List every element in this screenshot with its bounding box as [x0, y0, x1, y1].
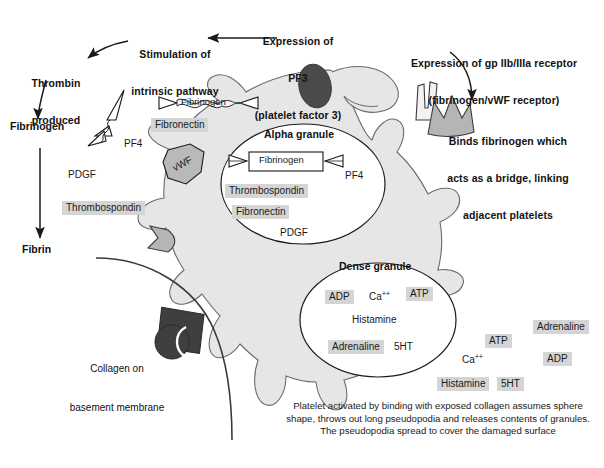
- dense-adp-chip: ADP: [325, 290, 354, 304]
- arrow-stimulation-to-thrombin: [88, 41, 128, 58]
- released-adrenaline-chip: Adrenaline: [533, 320, 589, 334]
- stimulation-line1: Stimulation of: [128, 48, 222, 60]
- dense-5ht-label: 5HT: [394, 341, 413, 352]
- binds-line3: adjacent platelets: [418, 209, 598, 221]
- alpha-fibronectin-chip: Fibronectin: [232, 205, 289, 219]
- dense-ca-label: Ca++: [369, 290, 390, 302]
- collagen-basement-membrane-label: Collagen on basement membrane: [57, 336, 177, 440]
- alpha-boxed-fibrinogen-label: Fibrinogen: [259, 155, 304, 165]
- alpha-pf4-label: PF4: [345, 170, 363, 181]
- released-fibronectin-chip: Fibronectin: [151, 118, 208, 132]
- gpiibiiia-line1: Expression of gp IIb/IIIa receptor: [388, 57, 600, 69]
- dense-atp-chip: ATP: [406, 287, 433, 301]
- free-fibrinogen-label: Fibrinogen: [181, 97, 226, 107]
- expression-pf3-label: Expression of PF3 (platelet factor 3): [238, 10, 358, 146]
- dense-histamine-label: Histamine: [352, 314, 396, 325]
- figure-bottom-caption: Platelet activated by binding with expos…: [284, 400, 592, 438]
- binds-line1: Binds fibrinogen which: [418, 135, 598, 147]
- released-thrombospondin-chip: Thrombospondin: [62, 201, 145, 215]
- thrombin-produced-label: Thrombin produced: [22, 52, 90, 151]
- pf3-line1: Expression of: [238, 35, 358, 47]
- pf3-line2: PF3: [238, 72, 358, 84]
- figure-canvas: Thrombin produced Fibrinogen Fibrin Stim…: [0, 0, 604, 468]
- gpiibiiia-line2: (fibrinogen/vWF receptor): [388, 94, 600, 106]
- released-adp-chip: ADP: [543, 352, 572, 366]
- thrombin-line1: Thrombin: [22, 77, 90, 89]
- binds-line2: acts as a bridge, linking: [418, 172, 598, 184]
- released-histamine-chip: Histamine: [437, 377, 489, 391]
- alpha-granule-title: Alpha granule: [264, 128, 334, 140]
- collagen-line1: Collagen on: [57, 362, 177, 375]
- pf3-line3: (platelet factor 3): [238, 109, 358, 121]
- released-ca-label: Ca++: [462, 353, 483, 365]
- binds-fibrinogen-label: Binds fibrinogen which acts as a bridge,…: [418, 110, 598, 246]
- released-5ht-chip: 5HT: [497, 377, 524, 391]
- released-pf4-label: PF4: [124, 138, 142, 149]
- alpha-pdgf-label: PDGF: [280, 227, 308, 238]
- dense-adrenaline-chip: Adrenaline: [328, 340, 384, 354]
- released-atp-chip: ATP: [485, 334, 512, 348]
- fibrinogen-pathway-label: Fibrinogen: [10, 120, 64, 132]
- collagen-line2: basement membrane: [57, 401, 177, 414]
- fibrin-pathway-label: Fibrin: [22, 243, 51, 255]
- alpha-thrombospondin-chip: Thrombospondin: [225, 184, 308, 198]
- dense-granule-title: Dense granule: [339, 260, 411, 272]
- released-pdgf-label: PDGF: [68, 169, 96, 180]
- pf4-zigzag: [88, 90, 124, 146]
